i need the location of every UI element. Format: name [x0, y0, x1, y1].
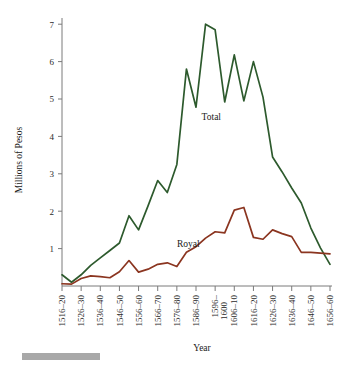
y-tick-label: 5: [50, 94, 55, 104]
x-axis-ticks: 1516–201526–301536–401546–501556–601566–…: [57, 286, 335, 327]
y-tick-label: 1: [50, 244, 55, 254]
x-tick-label: 1636–40: [287, 295, 297, 327]
y-tick-label: 6: [50, 57, 55, 67]
x-tick-label: 1606–10: [229, 295, 239, 327]
series-label-total: Total: [202, 112, 222, 122]
chart-figure: 1234567 1516–201526–301536–401546–501556…: [0, 0, 344, 368]
x-tick-label-continued: 1600: [219, 302, 229, 321]
x-tick-label: 1566–70: [153, 295, 163, 327]
x-tick-label: 1556–60: [134, 295, 144, 327]
y-tick-label: 4: [50, 132, 55, 142]
y-tick-label: 2: [50, 207, 55, 217]
x-tick-label: 1526–30: [76, 295, 86, 327]
y-axis-title: Millions of Pesos: [14, 126, 24, 193]
series-label-royal: Royal: [177, 239, 200, 249]
series-labels: TotalRoyal: [177, 112, 221, 250]
x-axis-title: Year: [193, 343, 211, 353]
line-chart: 1234567 1516–201526–301536–401546–501556…: [0, 0, 344, 368]
x-tick-label: 1536–40: [95, 295, 105, 327]
y-tick-label: 7: [50, 20, 55, 30]
y-tick-label: 3: [50, 169, 55, 179]
x-tick-label: 1516–20: [57, 295, 67, 327]
x-tick-label: 1626–30: [268, 295, 278, 327]
x-tick-label: 1656–60: [325, 295, 335, 327]
x-tick-label: 1546–50: [115, 295, 125, 327]
y-axis-ticks: 1234567: [50, 20, 63, 254]
x-tick-label: 1646–50: [306, 295, 316, 327]
x-tick-label: 1576–80: [172, 295, 182, 327]
x-tick-label: 1616–20: [249, 295, 259, 327]
x-tick-label: 1586–90: [191, 295, 201, 327]
scale-bar: [22, 353, 100, 360]
